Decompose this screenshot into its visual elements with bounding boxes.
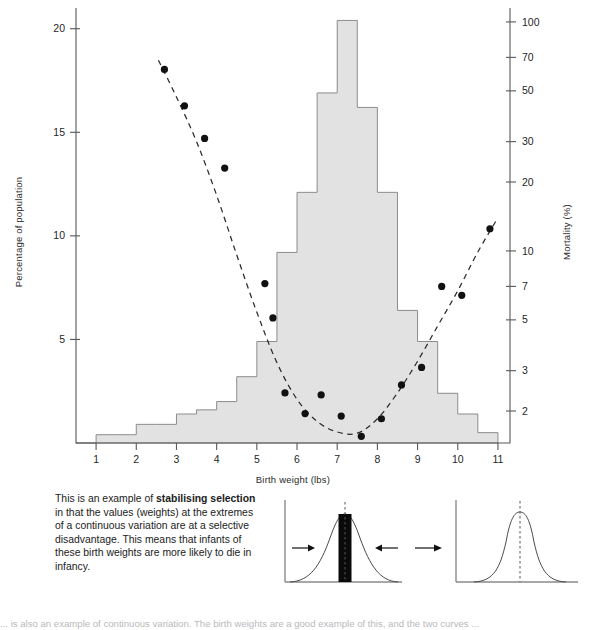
left-axis-title: Percentage of population bbox=[13, 177, 24, 287]
x-tick-label: 8 bbox=[374, 453, 380, 465]
page-footnote: ... is also an example of continuous var… bbox=[0, 618, 594, 629]
stabilising-selection-after bbox=[456, 500, 578, 582]
data-point bbox=[378, 415, 385, 422]
birth-weight-mortality-chart: 5101520235710203050701001234567891011Per… bbox=[0, 0, 594, 490]
x-tick-label: 9 bbox=[415, 453, 421, 465]
data-point bbox=[486, 225, 493, 232]
y2-tick-label: 70 bbox=[522, 51, 534, 63]
x-tick-label: 5 bbox=[254, 453, 260, 465]
y-tick-label: 15 bbox=[53, 126, 65, 138]
data-point bbox=[438, 283, 445, 290]
data-point bbox=[458, 292, 465, 299]
data-point bbox=[418, 364, 425, 371]
x-tick-label: 2 bbox=[133, 453, 139, 465]
x-tick-label: 7 bbox=[334, 453, 340, 465]
data-point bbox=[181, 102, 188, 109]
data-point bbox=[281, 389, 288, 396]
x-tick-label: 6 bbox=[294, 453, 300, 465]
caption-bold-term: stabilising selection bbox=[156, 493, 255, 504]
x-tick-label: 1 bbox=[93, 453, 99, 465]
data-point bbox=[318, 391, 325, 398]
figure-container: 5101520235710203050701001234567891011Per… bbox=[0, 0, 594, 630]
y-tick-label: 5 bbox=[59, 333, 65, 345]
data-point bbox=[301, 410, 308, 417]
data-point bbox=[398, 381, 405, 388]
data-point bbox=[221, 164, 228, 171]
x-tick-label: 4 bbox=[214, 453, 220, 465]
x-tick-label: 11 bbox=[492, 453, 503, 465]
y2-tick-label: 30 bbox=[522, 135, 534, 147]
data-point bbox=[338, 413, 345, 420]
data-point bbox=[269, 314, 276, 321]
y-tick-label: 20 bbox=[53, 22, 65, 34]
caption-text: This is an example of stabilising select… bbox=[55, 492, 260, 574]
y2-tick-label: 5 bbox=[522, 313, 528, 325]
x-tick-label: 10 bbox=[452, 453, 464, 465]
y2-tick-label: 50 bbox=[522, 84, 534, 96]
y2-tick-label: 7 bbox=[522, 280, 528, 292]
right-axis-title: Mortality (%) bbox=[561, 204, 572, 260]
selection-diagram bbox=[282, 492, 582, 586]
y2-tick-label: 3 bbox=[522, 364, 528, 376]
y2-tick-label: 2 bbox=[522, 405, 528, 417]
x-tick-label: 3 bbox=[174, 453, 180, 465]
caption-body: in that the values (weights) at the extr… bbox=[55, 507, 253, 572]
data-point bbox=[358, 433, 365, 440]
y2-tick-label: 10 bbox=[522, 245, 534, 257]
y2-tick-label: 100 bbox=[522, 16, 540, 28]
birth-weight-distribution bbox=[76, 20, 498, 443]
data-point bbox=[161, 66, 168, 73]
y-tick-label: 10 bbox=[53, 229, 65, 241]
transition-arrow bbox=[415, 545, 442, 552]
caption-lead: This is an example of bbox=[55, 493, 156, 504]
y2-tick-label: 20 bbox=[522, 176, 534, 188]
data-point bbox=[201, 135, 208, 142]
data-point bbox=[261, 280, 268, 287]
stabilising-selection-before bbox=[285, 500, 402, 582]
caption-block: This is an example of stabilising select… bbox=[55, 492, 260, 574]
x-axis-title: Birth weight (lbs) bbox=[256, 474, 330, 485]
